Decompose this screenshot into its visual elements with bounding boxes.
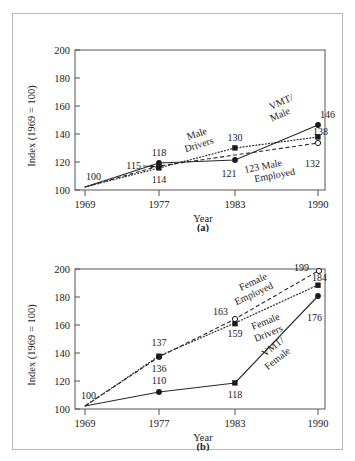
panel-b-ytick-200: 200: [54, 264, 70, 275]
panel-b-point-label-163: 163: [213, 306, 228, 317]
panel-b-point-label-110: 110: [152, 375, 167, 386]
panel-b-ytick-140: 140: [54, 348, 70, 359]
panel-b-xtick-1977: 1977: [149, 418, 170, 429]
panel-a-ytick-140: 140: [54, 129, 70, 140]
panel-a-point-label-100: 100: [86, 171, 101, 182]
panel-b-point-label-199: 199: [294, 262, 309, 273]
panel-a-ytick-180: 180: [54, 73, 70, 84]
panel-a-point-label-130: 130: [228, 132, 243, 143]
series-markers-vmt-male: [156, 122, 321, 166]
panel-b-xtick-1983: 1983: [225, 418, 246, 429]
panel-a-ytick-120: 120: [54, 157, 70, 168]
panel-a-point-label-121: 121: [222, 168, 237, 179]
panel-a-xtick-1977: 1977: [149, 199, 170, 210]
panel-a-ytick-200: 200: [54, 45, 70, 56]
panel-b-xtick-1990: 1990: [308, 418, 329, 429]
panel-a-caption: (a): [197, 222, 210, 232]
panel-a-point-label-146: 146: [320, 109, 335, 120]
panel-a-annotation-male-employed: 123 Male Employed: [243, 155, 295, 186]
figure-container: Index (1969 = 100) 100 120 140 160 180 2…: [12, 13, 343, 450]
panel-b-ytick-120: 120: [54, 376, 70, 387]
panel-a-point-label-138: 138: [313, 126, 328, 137]
series-line-male-employed: [85, 143, 318, 187]
panel-a-y-axis-title: Index (1969 = 100): [26, 85, 38, 167]
panel-b-ytick-100: 100: [54, 404, 70, 415]
panel-a-point-label-115: 115: [126, 160, 141, 171]
panel-b-point-label-136: 136: [152, 363, 167, 374]
panel-a-annotation-male-drivers: Male Drivers: [180, 124, 215, 154]
panel-b-point-label-100: 100: [81, 390, 96, 401]
panel-b-caption: (b): [197, 441, 210, 451]
panel-a-ytick-160: 160: [54, 101, 70, 112]
panel-b-point-label-176: 176: [307, 312, 322, 323]
panel-b-point-label-184: 184: [312, 272, 327, 283]
panel-a-y-tickmarks: [75, 50, 80, 190]
panel-b-annotation-female-employed: Female Employed: [228, 270, 275, 307]
panel-a-xtick-1969: 1969: [75, 199, 96, 210]
panel-b-ytick-160: 160: [54, 320, 70, 331]
panel-b-point-label-159: 159: [228, 328, 243, 339]
panel-b-point-label-118: 118: [228, 389, 243, 400]
panel-a-point-label-118: 118: [152, 147, 167, 158]
panel-b-ytick-180: 180: [54, 292, 70, 303]
panel-b-x-tickmarks: [85, 409, 318, 415]
panel-b-point-label-137: 137: [152, 337, 167, 348]
panel-a-point-label-132: 132: [305, 158, 320, 169]
panel-a-annotation-vmt-male: VMT/ Male: [264, 92, 300, 124]
panel-a-x-tickmarks: [85, 190, 318, 196]
panel-b-y-axis-title: Index (1969 = 100): [26, 304, 38, 386]
panel-b-y-tickmarks: [75, 269, 80, 409]
chart-panel-a: Index (1969 = 100) 100 120 140 160 180 2…: [13, 14, 344, 232]
panel-b-xtick-1969: 1969: [75, 418, 96, 429]
panel-a-xtick-1983: 1983: [225, 199, 246, 210]
chart-panel-b: Index (1969 = 100) 100 120 140 160 180 2…: [13, 233, 344, 451]
panel-a-xtick-1990: 1990: [308, 199, 329, 210]
panel-a-ytick-100: 100: [54, 185, 70, 196]
series-markers-male-employed: [156, 140, 320, 168]
series-line-female-employed: [85, 271, 318, 406]
panel-a-point-label-114: 114: [152, 174, 167, 185]
